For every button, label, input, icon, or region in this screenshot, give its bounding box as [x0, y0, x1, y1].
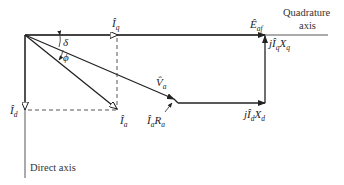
va-label: V̂a [156, 76, 167, 91]
delta-angle-arc [59, 35, 60, 47]
direct-axis-label: Direct axis [30, 162, 76, 173]
quadrature-axis-label-line2: axis [299, 20, 316, 31]
ia-label: Îa [119, 114, 128, 129]
va-phasor [25, 35, 174, 99]
phi-label: ϕ [63, 51, 69, 63]
delta-label: δ [63, 36, 69, 48]
jiqxq-label: jÎqXq [267, 37, 290, 52]
quadrature-axis-label-line1: Quadrature [283, 7, 331, 18]
phasor-diagram: δ ϕ Îq Êaf jÎqXq V̂a Îd Îa ÎaRa jÎdXd Qu… [0, 0, 344, 185]
ia-phasor [25, 35, 117, 109]
iq-label: Îq [111, 17, 120, 32]
iara-phasor [174, 99, 178, 103]
eaf-label: Êaf [249, 18, 263, 33]
jidxd-label: jÎdXd [242, 108, 265, 123]
id-label: Îd [9, 104, 18, 119]
iara-label: ÎaRa [146, 114, 165, 129]
iara-pointer [165, 103, 172, 112]
